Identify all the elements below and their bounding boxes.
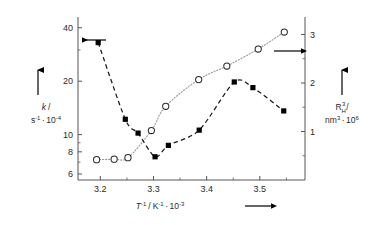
right-tick-label: 1 — [310, 127, 315, 137]
rh-data-point-marker — [281, 29, 287, 35]
k-data-point-marker — [250, 85, 255, 90]
rh-data-point-marker — [224, 63, 230, 69]
x-tick-label: 3.3 — [147, 184, 160, 194]
k-data-point-marker — [232, 79, 237, 84]
rh-data-point-marker — [196, 76, 202, 82]
left-axis-factor-exp: -4 — [56, 115, 62, 121]
x-tick-label: 3.2 — [94, 184, 107, 194]
left-tick-label: 10 — [63, 130, 73, 140]
left-axis-dot: · — [42, 115, 45, 125]
x-tick-label: 3.4 — [200, 184, 213, 194]
rh-data-point-marker — [125, 155, 131, 161]
chart-svg: 68102040 123 3.23.33.43.5 — [0, 0, 378, 225]
k-data-point-marker — [166, 143, 171, 148]
x-tick-label: 3.5 — [254, 184, 267, 194]
right-tick-label: 2 — [310, 78, 315, 88]
chart-background — [0, 0, 378, 225]
svg-text:nm3·106: nm3·106 — [325, 115, 359, 126]
right-axis-factor: 10 — [346, 115, 356, 125]
rh-data-point-marker — [111, 156, 117, 162]
chart-figure: 68102040 123 3.23.33.43.5 — [0, 0, 378, 225]
left-axis-unit-exp: -1 — [35, 115, 41, 121]
right-axis-dot: · — [342, 115, 345, 125]
left-tick-label: 20 — [63, 76, 73, 86]
left-tick-label: 6 — [68, 169, 73, 179]
k-data-point-marker — [123, 117, 128, 122]
left-axis-factor: 10 — [46, 115, 56, 125]
rh-data-point-marker — [163, 103, 169, 109]
right-tick-label: 3 — [310, 30, 315, 40]
k-data-point-marker — [96, 40, 101, 45]
svg-text:RH3/: RH3/ — [335, 101, 349, 115]
k-data-point-marker — [152, 154, 157, 159]
rh-data-point-marker — [94, 157, 100, 163]
rh-data-point-marker — [255, 46, 261, 52]
x-axis-unit-exp: -1 — [158, 201, 164, 207]
x-axis-factor: 10 — [169, 201, 179, 211]
right-axis-unit: nm — [325, 115, 337, 125]
k-data-point-marker — [197, 128, 202, 133]
x-axis-var-exp: -1 — [141, 201, 147, 207]
rh-data-point-marker — [148, 127, 154, 133]
left-tick-label: 8 — [68, 147, 73, 157]
left-tick-label: 40 — [63, 23, 73, 33]
k-data-point-marker — [135, 130, 140, 135]
k-data-point-marker — [281, 108, 286, 113]
x-axis-factor-exp: -3 — [179, 201, 185, 207]
x-axis-dot: · — [165, 201, 168, 211]
right-axis-var-sub: H — [342, 108, 346, 114]
